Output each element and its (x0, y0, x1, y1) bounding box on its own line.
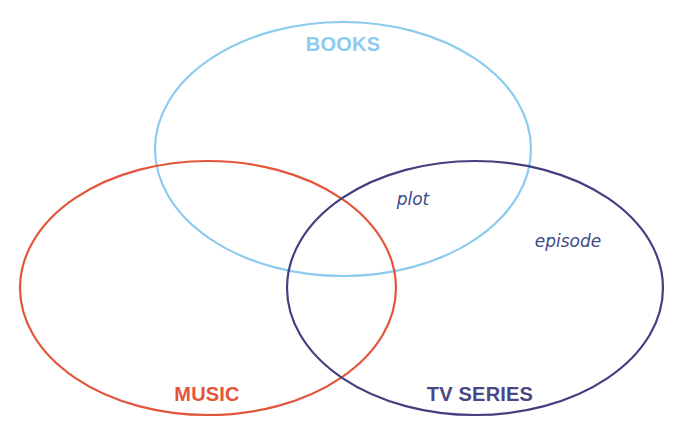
tv-series-set-label: TV SERIES (427, 383, 533, 405)
item-episode-label: episode (535, 231, 601, 251)
books-set-ellipse (155, 22, 531, 276)
venn-diagram: BOOKS MUSIC TV SERIES plot episode (0, 0, 683, 438)
music-set-label: MUSIC (174, 383, 239, 405)
books-set-label: BOOKS (306, 33, 380, 55)
item-plot-label: plot (396, 189, 431, 209)
venn-diagram-canvas: BOOKS MUSIC TV SERIES plot episode (0, 0, 683, 438)
